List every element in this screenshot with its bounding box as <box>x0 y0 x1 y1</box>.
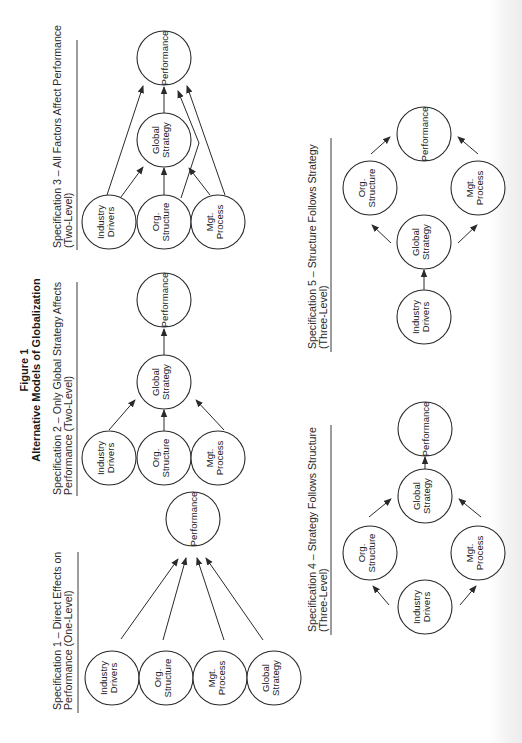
figure-number: Figure 1 <box>18 349 30 392</box>
node-perf: Performance <box>137 31 191 86</box>
figure-title: Figure 1 Alternative Models of Globaliza… <box>18 278 42 462</box>
node-label: Strategy <box>160 364 171 400</box>
node-label: Process <box>214 204 225 239</box>
node-ind: IndustryDrivers <box>85 651 139 705</box>
node-gs: GlobalStrategy <box>137 355 191 409</box>
node-label: Drivers <box>108 663 119 694</box>
node-gs: GlobalStrategy <box>137 113 191 167</box>
arrow-org-to-perf <box>371 137 390 154</box>
node-label: Drivers <box>421 592 432 623</box>
node-perf: Performance <box>398 402 452 457</box>
node-label: Strategy <box>420 224 431 260</box>
specification-2: Specification 2 – Only Global Strategy A… <box>51 273 245 496</box>
figure-page: Figure 1 Alternative Models of Globaliza… <box>0 0 522 743</box>
node-label: Performance <box>420 402 431 457</box>
spec-subtitle: Performance (Two-Level) <box>62 376 74 495</box>
arrow-ind-to-mgt <box>460 586 476 605</box>
node-label: Performance <box>419 107 430 162</box>
arrow-mgt-to-gs <box>459 499 481 517</box>
node-org: Org.Structure <box>137 195 191 249</box>
arrow-ind-to-gs <box>121 167 143 197</box>
specification-4: Specification 4 – Strategy Follows Struc… <box>306 402 505 635</box>
arrow-org-to-perf <box>163 558 186 640</box>
node-label: Drivers <box>105 443 116 474</box>
node-perf: Performance <box>166 492 220 547</box>
node-label: Drivers <box>105 207 116 238</box>
arrow-ind-to-perf <box>121 559 178 639</box>
node-mgt: Mgt.Process <box>451 526 505 580</box>
specification-1: Specification 1 – Direct Effects onPerfo… <box>51 492 301 713</box>
arrow-mgt-to-gs <box>196 400 224 430</box>
node-label: Performance <box>188 492 199 547</box>
node-mgt: Mgt.Process <box>193 651 247 705</box>
node-label: Strategy <box>270 660 281 696</box>
node-org: Org.Structure <box>343 526 397 580</box>
node-label: Process <box>214 440 225 475</box>
node-label: Drivers <box>420 302 431 333</box>
node-label: Structure <box>160 439 171 478</box>
arrow-ind-to-gs <box>109 400 135 430</box>
node-label: Structure <box>366 169 377 208</box>
node-ind: IndustryDrivers <box>398 580 452 634</box>
node-org: Org.Structure <box>343 161 397 215</box>
specification-5: Specification 5 – Structure Follows Stra… <box>306 107 505 352</box>
node-ind: IndustryDrivers <box>397 290 451 344</box>
node-gs: GlobalStrategy <box>397 215 451 269</box>
node-label: Structure <box>160 203 171 242</box>
arrow-mgt-to-perf <box>458 137 478 154</box>
node-label: Structure <box>366 534 377 573</box>
node-label: Strategy <box>421 478 432 514</box>
node-label: Process <box>216 660 227 695</box>
node-mgt: Mgt.Process <box>451 161 505 215</box>
globalization-models-diagram: Figure 1 Alternative Models of Globaliza… <box>0 0 522 743</box>
figure-heading: Alternative Models of Globalization <box>30 278 42 462</box>
arrow-ind-to-org <box>373 586 389 605</box>
node-ind: IndustryDrivers <box>82 431 136 485</box>
arrow-org-to-gs <box>369 499 391 517</box>
arrow-mgt-to-perf <box>197 558 224 640</box>
node-ind: IndustryDrivers <box>82 195 136 249</box>
node-label: Strategy <box>160 122 171 158</box>
spec-subtitle: (Three-Level) <box>317 568 329 632</box>
node-label: Structure <box>162 659 173 698</box>
node-perf: Performance <box>397 107 451 162</box>
arrow-mgt-to-perf <box>187 86 225 195</box>
node-mgt: Mgt.Process <box>191 431 245 485</box>
arrow-gs-to-org <box>372 225 391 243</box>
node-gs: GlobalStrategy <box>398 469 452 523</box>
node-label: Performance <box>159 31 170 86</box>
specifications-layer: Specification 1 – Direct Effects onPerfo… <box>51 25 505 713</box>
specification-3: Specification 3 – All Factors Affect Per… <box>51 25 245 250</box>
node-org: Org.Structure <box>139 651 193 705</box>
node-mgt: Mgt.Process <box>191 195 245 249</box>
spec-subtitle: Performance (One-Level) <box>62 590 74 710</box>
arrow-gs-to-perf <box>206 558 263 640</box>
node-label: Performance <box>159 273 170 328</box>
spec-subtitle: (Two-Level) <box>62 193 74 248</box>
node-label: Process <box>474 170 485 205</box>
spec-subtitle: (Three-Level) <box>317 285 329 349</box>
node-label: Process <box>474 535 485 570</box>
node-org: Org.Structure <box>137 431 191 485</box>
node-gs: GlobalStrategy <box>247 651 301 705</box>
node-perf: Performance <box>137 273 191 328</box>
arrow-gs-to-mgt <box>458 225 477 243</box>
arrow-mgt-to-gs <box>189 168 210 195</box>
